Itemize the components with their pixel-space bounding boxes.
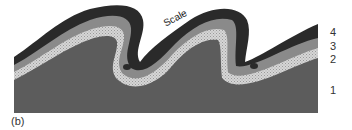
hinge-bump-right <box>250 63 258 69</box>
layer-label-1: 1 <box>330 85 336 96</box>
figure-caption: (b) <box>11 115 24 127</box>
hinge-bump-left <box>123 64 131 70</box>
folded-layers-diagram: Scale <box>0 0 352 130</box>
layer-label-2: 2 <box>330 54 336 65</box>
layer-label-3: 3 <box>330 41 336 52</box>
layer-label-4: 4 <box>330 27 336 38</box>
